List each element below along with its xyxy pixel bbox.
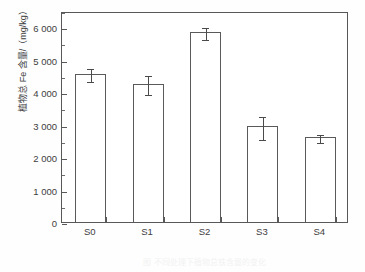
y-axis-tick-label: 2 000 [33, 153, 57, 164]
error-bar [263, 117, 264, 140]
x-axis-tick [278, 217, 279, 222]
bar [190, 32, 221, 222]
error-bar-cap-upper [259, 117, 266, 118]
y-axis-tick [62, 224, 67, 225]
plot-inner [62, 13, 347, 222]
y-axis-minor-tick [62, 175, 65, 176]
x-axis-tick-label: S0 [84, 226, 96, 237]
y-axis-tick-label: 4 000 [33, 88, 57, 99]
y-axis-minor-tick [62, 110, 65, 111]
error-bar-cap-upper [202, 28, 209, 29]
bar [75, 74, 106, 222]
y-axis-tick-label: 3 000 [33, 120, 57, 131]
x-axis-tick-label: S2 [199, 226, 211, 237]
x-axis-tick [221, 217, 222, 222]
x-axis-tick [106, 217, 107, 222]
y-axis-tick [62, 192, 67, 193]
x-axis-tick [305, 217, 306, 222]
x-axis-tick [190, 217, 191, 222]
bar [305, 137, 336, 222]
y-axis-tick [62, 62, 67, 63]
error-bar-cap-lower [145, 95, 152, 96]
x-axis-tick [247, 217, 248, 222]
x-axis-tick-label: S1 [141, 226, 153, 237]
error-bar-cap-upper [87, 69, 94, 70]
y-axis-tick [62, 29, 67, 30]
error-bar-cap-lower [202, 40, 209, 41]
error-bar-cap-upper [145, 76, 152, 77]
figure-caption: 图 不同处理下植物总铁含量的变化 [61, 256, 348, 266]
y-axis-minor-tick [62, 143, 65, 144]
y-axis-minor-tick [62, 208, 65, 209]
y-axis-tick-label: 1 000 [33, 185, 57, 196]
x-axis-tick-label: S4 [313, 226, 325, 237]
y-axis-tick-label: 0 [52, 218, 57, 229]
error-bar-cap-lower [87, 82, 94, 83]
y-axis-minor-tick [62, 45, 65, 46]
x-axis-tick [75, 217, 76, 222]
y-axis-tick-label: 5 000 [33, 55, 57, 66]
y-axis-tick [62, 94, 67, 95]
y-axis-minor-tick [62, 13, 65, 14]
x-axis-tick [133, 217, 134, 222]
plot-area [61, 12, 348, 223]
error-bar [91, 69, 92, 81]
error-bar [320, 135, 321, 143]
chart-figure: 植物总 Fe 含量/（mg/kg） 01 0002 0003 0004 0005… [0, 0, 365, 272]
y-axis-minor-tick [62, 78, 65, 79]
y-axis-tick [62, 127, 67, 128]
y-axis-tick-label: 6 000 [33, 23, 57, 34]
x-axis-tick [164, 217, 165, 222]
error-bar-cap-lower [259, 140, 266, 141]
x-axis-tick-labels: S0S1S2S3S4 [61, 226, 348, 242]
error-bar [148, 76, 149, 95]
error-bar [206, 28, 207, 40]
x-axis-tick [336, 217, 337, 222]
bar [133, 84, 164, 222]
error-bar-cap-upper [317, 135, 324, 136]
x-axis-tick-label: S3 [256, 226, 268, 237]
y-axis-tick-labels: 01 0002 0003 0004 0005 0006 000 [0, 0, 60, 272]
y-axis-tick [62, 159, 67, 160]
error-bar-cap-lower [317, 143, 324, 144]
